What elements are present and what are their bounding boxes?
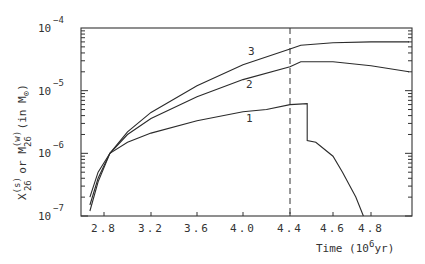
y-axis-title: X(s)26 or M(w)26 (in M⊙): [12, 84, 33, 200]
data-curves: [90, 42, 409, 216]
curve-labels: 321: [246, 45, 255, 125]
x-tick-label: 2.8: [91, 222, 117, 235]
x-tick-label: 3.2: [138, 222, 164, 235]
x-tick-label: 4.0: [230, 222, 256, 235]
svg-text:10: 10: [38, 147, 51, 160]
svg-text:10: 10: [38, 210, 51, 223]
svg-text:10: 10: [38, 85, 51, 98]
x-tick-label: 3.6: [184, 222, 210, 235]
chart: 10−710−610−510−4 2.83.23.64.04.44.64.8 3…: [0, 0, 425, 264]
svg-text:−6: −6: [53, 140, 64, 150]
svg-text:−4: −4: [53, 15, 64, 25]
curve-label-3: 3: [248, 45, 255, 58]
svg-text:10: 10: [38, 22, 51, 35]
x-tick-label: 4.6: [320, 222, 346, 235]
y-tick-label: 10−7: [38, 203, 64, 223]
y-tick-label: 10−6: [38, 140, 64, 160]
y-tick-label: 10−5: [38, 78, 64, 98]
y-tick-label: 10−4: [38, 15, 64, 35]
x-axis-ticks: 2.83.23.64.04.44.64.8: [91, 28, 384, 235]
curve-1: [90, 104, 364, 216]
x-tick-label: 4.8: [358, 222, 384, 235]
curve-label-2: 2: [246, 78, 253, 91]
curve-label-1: 1: [246, 112, 253, 125]
x-axis-title: Time (106yr): [316, 239, 394, 255]
svg-text:−5: −5: [53, 78, 64, 88]
x-tick-label: 4.4: [277, 222, 303, 235]
svg-text:−7: −7: [53, 203, 64, 213]
